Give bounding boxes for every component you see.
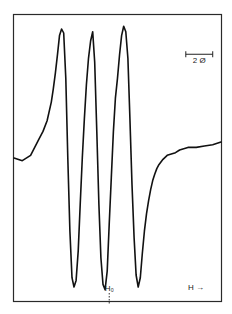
series-line-0 (14, 26, 221, 289)
esr-spectrum-chart: 2 Ø H₀ H → (0, 0, 232, 314)
scale-bar-label: 2 Ø (193, 56, 206, 65)
plot-frame (14, 15, 222, 302)
field-direction-label: H → (188, 283, 204, 292)
center-field-marker-label: H₀ (105, 284, 114, 293)
trace-layer (14, 26, 221, 289)
